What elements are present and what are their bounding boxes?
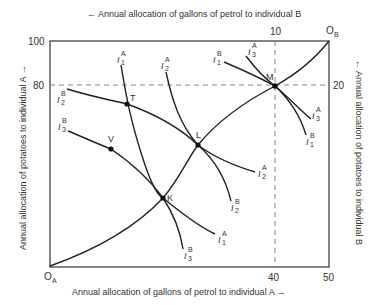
svg-text:2: 2 [235,207,239,214]
label-i1a-top: IA1 [117,50,126,66]
label-i1b-top: IB1 [213,50,222,66]
svg-text:I: I [258,169,261,179]
svg-text:A: A [316,106,321,113]
point-l [195,142,200,147]
svg-text:I: I [184,251,187,261]
svg-text:A: A [165,56,170,63]
bottom-axis-title: Annual allocation of gallons of petrol t… [72,287,286,297]
svg-text:3: 3 [62,126,66,133]
top-axis-title: ← Annual allocation of gallons of petrol… [87,9,301,19]
svg-text:I: I [161,61,164,71]
svg-text:A: A [121,50,126,57]
svg-text:B: B [188,246,193,253]
point-k [160,195,165,200]
point-label-m: M [266,72,274,82]
svg-text:A: A [222,230,227,237]
label-i2a-top: IA2 [161,56,170,72]
label-i2a-right: IA2 [258,164,267,180]
tick-bottom-40: 40 [268,272,280,283]
contract-curve [50,41,329,266]
curve-labels: IA1 IA2 IB1 IA3 IB2 IB3 IA3 IB1 IA2 IB2 … [57,42,321,262]
point-t [124,101,129,106]
svg-text:B: B [217,50,222,57]
tick-left-80: 80 [33,80,45,91]
svg-text:A: A [52,277,57,284]
svg-text:1: 1 [310,141,314,148]
label-i2b-bottom: IB2 [231,198,240,214]
svg-text:I: I [117,55,120,65]
edgeworth-box-diagram: T V K L M IA1 IA2 IB1 IA3 IB2 IB3 IA3 IB… [0,0,376,305]
svg-text:I: I [306,137,309,147]
svg-text:3: 3 [252,51,256,58]
label-i3a-top: IA3 [248,42,257,58]
svg-text:1: 1 [222,239,226,246]
svg-text:I: I [58,122,61,132]
svg-text:A: A [252,42,257,49]
label-i3b-bottom: IB3 [184,246,193,262]
svg-text:B: B [62,117,67,124]
svg-text:I: I [248,47,251,57]
svg-text:I: I [213,55,216,65]
indifference-curve-i1a [121,65,215,234]
indifference-curve-i1b [224,62,306,135]
label-i3b-left: IB3 [58,117,67,133]
tick-bottom-50: 50 [323,272,335,283]
indifference-curve-i2b [67,89,231,201]
tick-right-20: 20 [333,80,345,91]
indifference-curve-i3b [68,131,183,249]
point-label-k: K [167,193,173,203]
label-i1b-right: IB1 [306,132,315,148]
right-axis-title: ← Annual allocation of potatoes to indiv… [354,60,364,245]
svg-text:O: O [44,271,52,282]
origin-b: OB [326,25,339,38]
svg-text:O: O [326,25,334,36]
left-axis-title: Annual allocation of potatoes to individ… [18,65,28,250]
svg-text:A: A [262,164,267,171]
svg-text:2: 2 [262,173,266,180]
point-label-v: V [108,134,114,144]
label-i2b-left: IB2 [57,90,66,106]
indifference-curve-i3a [246,56,311,119]
point-label-t: T [130,93,136,103]
svg-text:B: B [334,31,339,38]
label-i1a-bottom: IA1 [218,230,227,246]
origin-a: OA [44,271,57,284]
svg-text:B: B [61,90,66,97]
svg-text:3: 3 [188,255,192,262]
tick-left-100: 100 [28,36,45,47]
svg-text:2: 2 [165,65,169,72]
svg-text:I: I [218,235,221,245]
box-frame [50,41,329,267]
svg-text:I: I [231,203,234,213]
svg-text:B: B [235,198,240,205]
label-i3a-right: IA3 [312,106,321,122]
svg-text:2: 2 [61,99,65,106]
point-label-l: L [196,130,201,140]
point-m [272,83,278,89]
svg-text:I: I [57,95,60,105]
svg-text:B: B [310,132,315,139]
svg-text:1: 1 [217,59,221,66]
svg-text:1: 1 [121,59,125,66]
svg-text:I: I [312,111,315,121]
tick-top-10: 10 [270,26,282,37]
svg-text:3: 3 [316,115,320,122]
point-v [108,146,113,151]
